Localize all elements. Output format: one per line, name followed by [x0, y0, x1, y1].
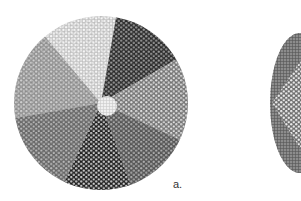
figure: a.: [0, 0, 301, 201]
panel-label: a.: [173, 178, 182, 190]
hexagonal-map-disk-a: [0, 0, 301, 201]
